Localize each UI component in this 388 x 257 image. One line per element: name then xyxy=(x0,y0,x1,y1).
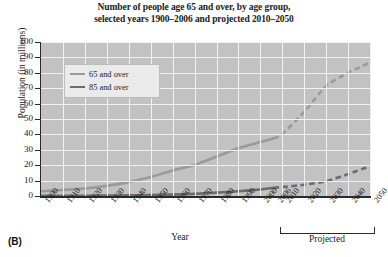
projected-bracket xyxy=(280,227,375,234)
panel-label: (B) xyxy=(8,236,22,247)
gridline-horizontal xyxy=(41,104,370,105)
projected-bracket-label: Projected xyxy=(272,234,382,244)
gridline-horizontal xyxy=(41,119,370,120)
gridline-horizontal xyxy=(41,134,370,135)
x-axis-tick-label: 2050 xyxy=(372,186,388,204)
gridline-vertical xyxy=(260,42,261,196)
y-axis-tick-label: 100 xyxy=(3,36,33,46)
plot-area: 65 and over 85 and over xyxy=(41,42,370,196)
gridline-vertical xyxy=(304,42,305,196)
legend-label-85-and-over: 85 and over xyxy=(89,83,129,92)
gridline-horizontal xyxy=(41,57,370,58)
gridline-vertical xyxy=(195,42,196,196)
y-axis-tick-label: 40 xyxy=(3,128,33,138)
y-axis-tick-label: 80 xyxy=(3,67,33,77)
legend-swatch-85-and-over xyxy=(70,86,85,89)
y-axis-tick-label: 0 xyxy=(3,190,33,200)
series-65-and-over-projected xyxy=(273,62,370,138)
gridline-vertical xyxy=(282,42,283,196)
y-axis-tick-label: 30 xyxy=(3,144,33,154)
gridline-horizontal xyxy=(41,165,370,166)
y-axis-tick-label: 50 xyxy=(3,113,33,123)
gridline-vertical xyxy=(238,42,239,196)
y-axis-tick-label: 10 xyxy=(3,175,33,185)
y-axis-tick-label: 70 xyxy=(3,82,33,92)
legend-swatch-65-and-over xyxy=(70,73,85,76)
chart-legend: 65 and over 85 and over xyxy=(64,64,160,98)
chart-title-line-2: selected years 1900–2006 and projected 2… xyxy=(94,14,294,24)
series-85-and-over-projected xyxy=(273,166,370,188)
gridline-horizontal xyxy=(41,42,370,43)
legend-entry-85-and-over: 85 and over xyxy=(70,81,129,93)
gridline-vertical xyxy=(370,42,371,196)
figure-panel-b: Number of people age 65 and over, by age… xyxy=(0,0,388,257)
x-axis-title: Year xyxy=(150,232,210,242)
y-axis-tick-label: 20 xyxy=(3,159,33,169)
gridline-vertical xyxy=(348,42,349,196)
gridline-horizontal xyxy=(41,181,370,182)
legend-entry-65-and-over: 65 and over xyxy=(70,68,129,80)
gridline-vertical xyxy=(173,42,174,196)
chart-title: Number of people age 65 and over, by age… xyxy=(0,2,388,25)
chart-title-line-1: Number of people age 65 and over, by age… xyxy=(98,2,291,12)
y-axis-line xyxy=(40,42,41,197)
gridline-vertical xyxy=(217,42,218,196)
y-axis-tick-label: 60 xyxy=(3,98,33,108)
gridline-horizontal xyxy=(41,150,370,151)
y-axis-tick-label: 90 xyxy=(3,51,33,61)
legend-label-65-and-over: 65 and over xyxy=(89,70,129,79)
gridline-vertical xyxy=(326,42,327,196)
